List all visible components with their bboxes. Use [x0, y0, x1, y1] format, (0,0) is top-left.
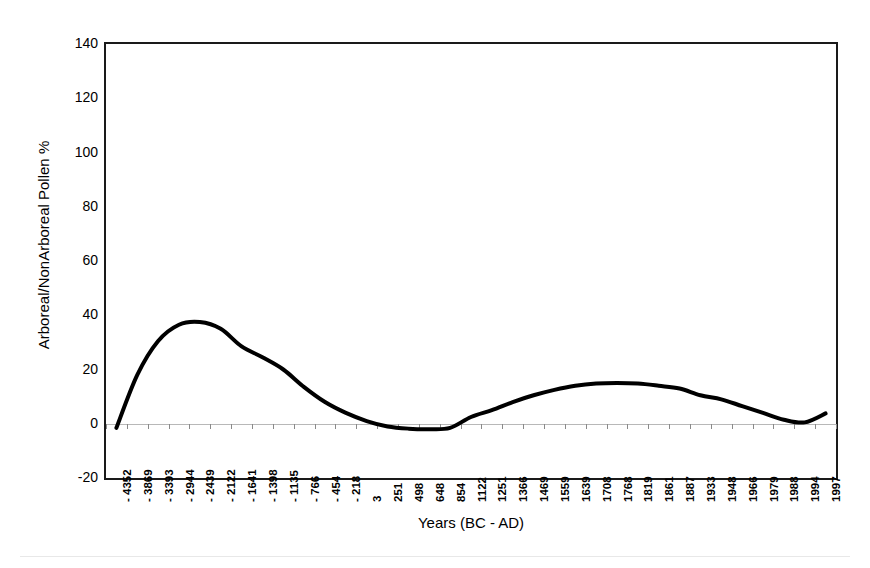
- x-tick-label: 1887: [684, 476, 696, 502]
- x-tick-label: - 3393: [163, 469, 175, 502]
- x-tick-label: - 218: [350, 476, 362, 502]
- x-tick-mark: [836, 424, 837, 429]
- y-axis-tick-labels: 140120100806040200-20: [50, 0, 98, 568]
- x-tick-label: - 766: [309, 476, 321, 502]
- x-tick-label: - 1398: [267, 469, 279, 502]
- x-tick-label: 1979: [768, 476, 780, 502]
- x-tick-label: 1559: [559, 476, 571, 502]
- y-tick-label: 20: [56, 361, 98, 377]
- pollen-percentage-chart: Arboreal/NonArboreal Pollen % 1401201008…: [0, 0, 870, 568]
- x-tick-label: 648: [434, 483, 446, 502]
- x-axis-title: Years (BC - AD): [104, 514, 838, 531]
- x-tick-label: 1997: [830, 476, 842, 502]
- plot-inner: [106, 44, 836, 478]
- y-tick-label: 60: [56, 252, 98, 268]
- x-tick-label: - 454: [330, 476, 342, 502]
- x-tick-label: 854: [455, 483, 467, 502]
- x-tick-label: - 2439: [204, 469, 216, 502]
- scan-artifact-line: [20, 556, 850, 557]
- x-tick-label: - 2122: [225, 469, 237, 502]
- x-tick-label: - 4352: [121, 469, 133, 502]
- x-tick-label: 1994: [809, 476, 821, 502]
- x-tick-label: - 1641: [246, 469, 258, 502]
- x-tick-label: 1251: [496, 476, 508, 502]
- x-tick-label: 1639: [580, 476, 592, 502]
- x-tick-label: 1708: [601, 476, 613, 502]
- x-tick-label: 1933: [705, 476, 717, 502]
- y-tick-label: 120: [56, 89, 98, 105]
- x-tick-label: - 2944: [184, 469, 196, 502]
- x-tick-label: 1988: [788, 476, 800, 502]
- data-series-line: [106, 44, 836, 478]
- y-tick-label: 80: [56, 198, 98, 214]
- y-tick-label: 140: [56, 35, 98, 51]
- y-tick-label: -20: [56, 469, 98, 485]
- y-tick-label: 100: [56, 144, 98, 160]
- x-tick-label: 1966: [747, 476, 759, 502]
- x-tick-label: 1768: [622, 476, 634, 502]
- y-tick-label: 40: [56, 306, 98, 322]
- x-axis-tick-labels: - 4352- 3869- 3393- 2944- 2439- 2122- 16…: [104, 448, 838, 504]
- x-tick-label: 1861: [663, 476, 675, 502]
- x-tick-label: 1819: [642, 476, 654, 502]
- x-tick-label: 1469: [538, 476, 550, 502]
- x-tick-label: 3: [371, 496, 383, 502]
- y-tick-label: 0: [56, 415, 98, 431]
- x-tick-label: 498: [413, 483, 425, 502]
- x-tick-label: 251: [392, 483, 404, 502]
- plot-area: [104, 42, 838, 480]
- x-tick-label: 1122: [476, 477, 488, 502]
- x-tick-label: - 3869: [142, 469, 154, 502]
- x-tick-label: 1366: [517, 476, 529, 502]
- x-tick-label: - 1135: [288, 470, 300, 502]
- x-tick-label: 1948: [726, 476, 738, 502]
